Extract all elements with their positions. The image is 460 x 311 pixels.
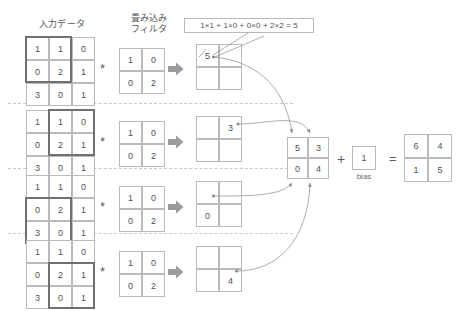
output-cell — [196, 269, 219, 292]
process-arrow-icon-1 — [168, 62, 184, 80]
formula-callout: 1×1 + 1×0 + 0×0 + 2×2 = 5 — [184, 18, 314, 33]
output-cell: 0 — [196, 204, 219, 227]
convolve-operator-4: * — [100, 265, 105, 278]
filter-cell: 0 — [119, 209, 142, 232]
output-cell: 4 — [219, 269, 242, 292]
output-matrix-step-3: 0 — [196, 181, 242, 227]
input-cell: 1 — [72, 198, 95, 221]
input-cell: 1 — [72, 263, 95, 286]
input-cell: 1 — [49, 37, 72, 60]
final-result-cell: 6 — [404, 134, 428, 158]
process-arrow-icon-3 — [168, 200, 184, 218]
filter-cell: 0 — [142, 251, 165, 274]
input-matrix-step-3: 1 1 0 0 2 1 3 0 1 — [26, 175, 95, 244]
convolve-operator-1: * — [100, 62, 105, 75]
input-cell: 0 — [26, 198, 49, 221]
output-cell — [196, 181, 219, 204]
input-cell: 0 — [49, 83, 72, 106]
output-cell — [219, 204, 242, 227]
final-result-cell: 1 — [404, 158, 428, 182]
convolve-operator-2: * — [100, 135, 105, 148]
filter-cell: 1 — [119, 186, 142, 209]
final-result-matrix: 6 4 1 5 — [404, 134, 452, 182]
input-matrix-step-2: 1 1 0 0 2 1 3 0 1 — [26, 110, 95, 179]
filter-cell: 0 — [142, 48, 165, 71]
conv-output-cell: 4 — [308, 158, 329, 179]
filter-cell: 0 — [142, 121, 165, 144]
output-cell: 3 — [219, 116, 242, 139]
input-cell: 2 — [49, 263, 72, 286]
output-cell — [196, 116, 219, 139]
conv-output-cell: 5 — [287, 137, 308, 158]
input-cell: 2 — [49, 60, 72, 83]
input-cell: 2 — [49, 133, 72, 156]
input-cell: 1 — [26, 110, 49, 133]
process-arrow-icon-4 — [168, 265, 184, 283]
filter-cell: 0 — [119, 144, 142, 167]
output-matrix-step-2: 3 — [196, 116, 242, 162]
filter-matrix-step-2: 1 0 0 2 — [119, 121, 165, 167]
filter-cell: 0 — [119, 274, 142, 297]
input-cell: 1 — [26, 240, 49, 263]
output-cell — [219, 139, 242, 162]
input-cell: 0 — [26, 60, 49, 83]
process-arrow-icon-2 — [168, 135, 184, 153]
input-cell: 0 — [26, 263, 49, 286]
output-cell — [196, 139, 219, 162]
input-cell: 1 — [72, 60, 95, 83]
filter-cell: 1 — [119, 48, 142, 71]
filter-cell: 0 — [119, 71, 142, 94]
bias-label: bias — [344, 172, 384, 181]
input-cell: 0 — [26, 133, 49, 156]
input-cell: 0 — [49, 286, 72, 309]
output-cell — [196, 67, 219, 90]
output-cell — [219, 67, 242, 90]
input-cell: 0 — [72, 240, 95, 263]
input-cell: 3 — [26, 83, 49, 106]
output-matrix-step-4: 4 — [196, 246, 242, 292]
input-cell: 2 — [49, 198, 72, 221]
conv-output-cell: 0 — [287, 158, 308, 179]
equals-operator: = — [389, 152, 397, 165]
input-cell: 0 — [72, 110, 95, 133]
output-cell — [196, 246, 219, 269]
input-cell: 0 — [72, 37, 95, 60]
input-cell: 0 — [72, 175, 95, 198]
input-cell: 3 — [26, 286, 49, 309]
final-result-cell: 5 — [428, 158, 452, 182]
filter-cell: 0 — [142, 186, 165, 209]
input-cell: 1 — [72, 286, 95, 309]
output-cell: 5 — [196, 44, 219, 67]
output-matrix-step-1: 5 — [196, 44, 242, 90]
filter-cell: 1 — [119, 251, 142, 274]
filter-cell: 2 — [142, 144, 165, 167]
filter-cell: 2 — [142, 274, 165, 297]
filter-cell: 2 — [142, 209, 165, 232]
input-cell: 1 — [49, 110, 72, 133]
input-data-heading: 入力データ — [22, 19, 102, 30]
filter-heading: 畳み込み フィルタ — [114, 13, 184, 35]
filter-cell: 1 — [119, 121, 142, 144]
conv-output-matrix: 5 3 0 4 — [287, 137, 329, 179]
input-cell: 1 — [72, 83, 95, 106]
input-matrix-step-1: 1 1 0 0 2 1 3 0 1 — [26, 37, 95, 106]
input-cell: 1 — [49, 175, 72, 198]
filter-cell: 2 — [142, 71, 165, 94]
input-cell: 1 — [26, 175, 49, 198]
output-cell — [219, 44, 242, 67]
filter-matrix-step-3: 1 0 0 2 — [119, 186, 165, 232]
input-matrix-step-4: 1 1 0 0 2 1 3 0 1 — [26, 240, 95, 309]
convolution-diagram: 入力データ 畳み込み フィルタ 1 1 0 0 2 1 3 0 1 * 1 0 … — [0, 0, 460, 311]
convolve-operator-3: * — [100, 200, 105, 213]
input-cell: 1 — [72, 133, 95, 156]
input-cell: 1 — [26, 37, 49, 60]
filter-matrix-step-4: 1 0 0 2 — [119, 251, 165, 297]
conv-output-cell: 3 — [308, 137, 329, 158]
filter-matrix-step-1: 1 0 0 2 — [119, 48, 165, 94]
final-result-cell: 4 — [428, 134, 452, 158]
output-cell — [219, 181, 242, 204]
bias-box: 1 — [352, 146, 376, 170]
input-cell: 1 — [49, 240, 72, 263]
plus-operator: + — [337, 152, 345, 166]
output-cell — [219, 246, 242, 269]
